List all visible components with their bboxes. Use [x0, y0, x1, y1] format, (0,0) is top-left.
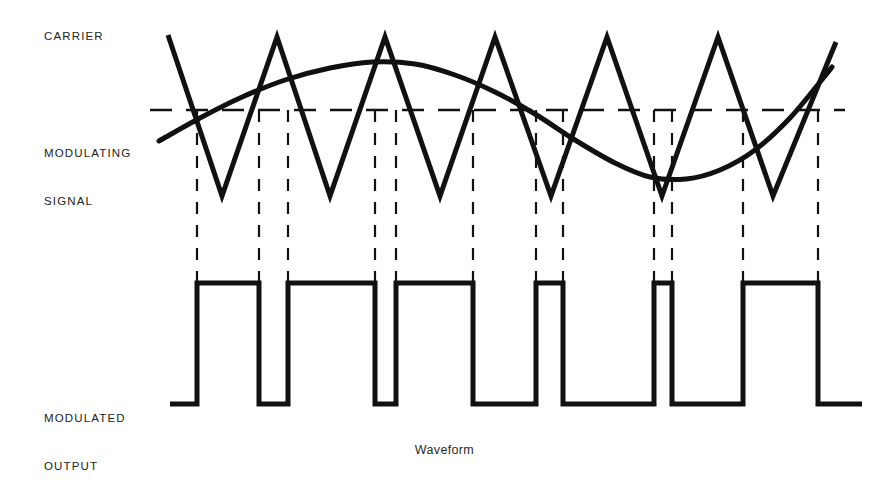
waveform-plot — [0, 0, 889, 480]
waveform-figure: CARRIER MODULATING SIGNAL MODULATED OUTP… — [0, 0, 889, 480]
modulating-signal-label-line2: SIGNAL — [44, 193, 131, 209]
carrier-label: CARRIER — [44, 28, 104, 44]
modulated-output-label-line1: MODULATED — [44, 410, 126, 426]
modulating-signal-label-line1: MODULATING — [44, 145, 131, 161]
modulated-output-label-line2: OUTPUT — [44, 458, 126, 474]
figure-caption: Waveform — [0, 443, 889, 457]
modulating-signal-label: MODULATING SIGNAL — [44, 113, 131, 241]
modulated-output-label: MODULATED OUTPUT — [44, 378, 126, 480]
